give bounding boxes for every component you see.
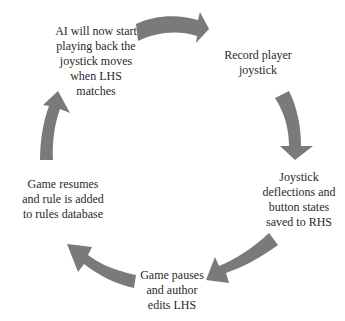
node-record-line: Record player (213, 48, 303, 63)
node-resume-add-line: to rules database (13, 207, 113, 222)
arrow-pause-to-resume (67, 244, 136, 288)
node-ai-playback-line: joystick moves (48, 54, 144, 69)
node-pause-edit-line: edits LHS (136, 298, 208, 313)
node-save-rhs: Joystick deflections and button states s… (254, 170, 344, 230)
node-ai-playback: AI will now start playing back the joyst… (48, 24, 144, 99)
node-record-line: joystick (213, 63, 303, 78)
cycle-diagram: AI will now start playing back the joyst… (0, 0, 345, 321)
node-record: Record player joystick (213, 48, 303, 78)
node-pause-edit: Game pauses and author edits LHS (136, 268, 208, 313)
node-save-rhs-line: button states (254, 200, 344, 215)
node-resume-add: Game resumes and rule is added to rules … (13, 177, 113, 222)
node-ai-playback-line: AI will now start (48, 24, 144, 39)
arrow-resume-to-ai (40, 91, 70, 160)
node-save-rhs-line: deflections and (254, 185, 344, 200)
node-pause-edit-line: and author (136, 283, 208, 298)
node-resume-add-line: and rule is added (13, 192, 113, 207)
node-ai-playback-line: when LHS (48, 69, 144, 84)
node-ai-playback-line: matches (48, 84, 144, 99)
arrow-save-to-pause (206, 233, 278, 283)
node-save-rhs-line: saved to RHS (254, 215, 344, 230)
node-resume-add-line: Game resumes (13, 177, 113, 192)
arrow-ai-to-record (136, 12, 209, 43)
arrow-record-to-save (275, 91, 313, 160)
node-save-rhs-line: Joystick (254, 170, 344, 185)
node-pause-edit-line: Game pauses (136, 268, 208, 283)
node-ai-playback-line: playing back the (48, 39, 144, 54)
